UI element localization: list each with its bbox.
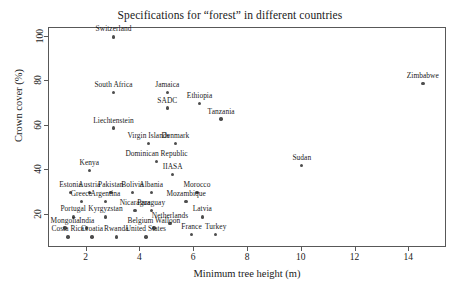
- data-point[interactable]: [300, 164, 303, 167]
- data-point-label: Ethiopia: [187, 91, 212, 100]
- data-point-label: Paraguay: [137, 198, 165, 207]
- data-point-label: Mozambique: [166, 189, 206, 198]
- x-axis-tick: [247, 247, 248, 251]
- data-point[interactable]: [112, 35, 115, 38]
- data-point[interactable]: [219, 117, 222, 120]
- data-point[interactable]: [190, 233, 193, 236]
- data-point[interactable]: [104, 215, 107, 218]
- data-point[interactable]: [115, 235, 118, 238]
- data-point-label: Turkey: [205, 222, 226, 231]
- data-point-label: Dominican Republic: [125, 149, 187, 158]
- data-point-label: Latvia: [193, 204, 212, 213]
- data-point-label: Liechtenstein: [93, 116, 133, 125]
- data-point[interactable]: [112, 91, 115, 94]
- y-axis-tick-label: 20: [33, 209, 43, 219]
- data-point[interactable]: [147, 142, 150, 145]
- y-axis-tick-label: 40: [33, 164, 43, 174]
- data-point-label: IIASA: [163, 162, 183, 171]
- x-axis-label: Minimum tree height (m): [48, 268, 446, 279]
- data-point-label: Albania: [139, 180, 163, 189]
- data-point-label: Argentina: [91, 189, 121, 198]
- y-axis-tick-label: 60: [33, 120, 43, 130]
- x-axis-tick: [193, 247, 194, 251]
- x-axis-tick-label: 4: [137, 252, 142, 262]
- data-point-label: Portugal: [60, 204, 85, 213]
- x-axis-tick-label: 2: [83, 252, 88, 262]
- data-point[interactable]: [150, 191, 153, 194]
- data-point[interactable]: [166, 91, 169, 94]
- y-axis-tick-label: 80: [33, 76, 43, 86]
- data-point[interactable]: [214, 233, 217, 236]
- data-point[interactable]: [174, 142, 177, 145]
- data-point[interactable]: [198, 102, 201, 105]
- data-points-layer: SwitzerlandZimbabweSouth AfricaJamaicaSA…: [49, 28, 445, 246]
- data-point-label: Costa Rica: [51, 224, 84, 233]
- data-point[interactable]: [144, 235, 147, 238]
- data-point[interactable]: [112, 126, 115, 129]
- data-point[interactable]: [131, 191, 134, 194]
- data-point-label: Kenya: [80, 158, 100, 167]
- data-point-label: Belgium Walloon: [127, 216, 180, 225]
- x-axis-tick: [408, 247, 409, 251]
- scatter-plot-figure: Specifications for “forest” in different…: [0, 0, 460, 293]
- plot-area: SwitzerlandZimbabweSouth AfricaJamaicaSA…: [48, 27, 446, 247]
- data-point[interactable]: [133, 209, 136, 212]
- x-axis-tick-label: 8: [245, 252, 250, 262]
- x-axis-tick: [139, 247, 140, 251]
- data-point[interactable]: [155, 160, 158, 163]
- data-point-label: Austria: [78, 180, 100, 189]
- data-point-label: Greece: [71, 189, 92, 198]
- data-point-label: Zimbabwe: [407, 71, 439, 80]
- x-axis-tick-label: 10: [296, 252, 306, 262]
- data-point-label: Morocco: [183, 180, 210, 189]
- data-point-label: Jamaica: [155, 80, 179, 89]
- data-point-label: SADC: [157, 96, 177, 105]
- data-point-label: United States: [126, 224, 166, 233]
- x-axis-tick: [355, 247, 356, 251]
- data-point-label: Denmark: [161, 131, 189, 140]
- y-axis-tick-label: 100: [35, 29, 45, 43]
- x-axis-tick-label: 12: [350, 252, 360, 262]
- data-point-label: Kyrgyzstan: [88, 204, 122, 213]
- data-point-label: France: [181, 222, 201, 231]
- data-point[interactable]: [90, 235, 93, 238]
- data-point[interactable]: [166, 106, 169, 109]
- data-point-label: Croatia: [81, 224, 103, 233]
- data-point[interactable]: [104, 200, 107, 203]
- page-title: Specifications for “forest” in different…: [0, 9, 460, 21]
- data-point-label: Pakistan: [98, 180, 123, 189]
- x-axis-tick-label: 6: [191, 252, 196, 262]
- data-point[interactable]: [184, 200, 187, 203]
- data-point-label: Sudan: [292, 153, 311, 162]
- data-point-label: Mongolia: [51, 216, 80, 225]
- data-point[interactable]: [66, 235, 69, 238]
- data-point-label: South Africa: [94, 80, 132, 89]
- x-axis-tick-label: 14: [404, 252, 414, 262]
- data-point[interactable]: [80, 200, 83, 203]
- data-point-label: Switzerland: [96, 24, 132, 33]
- data-point[interactable]: [421, 82, 424, 85]
- data-point-label: Tanzania: [208, 107, 235, 116]
- x-axis-tick: [301, 247, 302, 251]
- data-point[interactable]: [88, 169, 91, 172]
- data-point[interactable]: [201, 215, 204, 218]
- x-axis-tick: [86, 247, 87, 251]
- y-axis-label: Crown cover (%): [13, 46, 24, 166]
- data-point-label: India: [79, 216, 94, 225]
- data-point[interactable]: [171, 173, 174, 176]
